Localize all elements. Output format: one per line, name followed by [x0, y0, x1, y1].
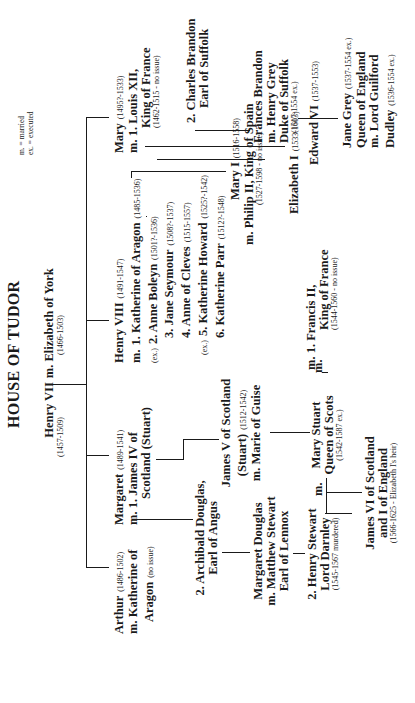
- wife-6-dates: (1512?-1548): [217, 196, 226, 240]
- person-charles-brandon: 2. Charles Brandon Earl of Suffolk: [185, 18, 211, 123]
- connector: [322, 372, 328, 373]
- person-arthur: Arthur (1486-1502) m. Katherine of Arago…: [110, 546, 157, 634]
- person-henry-stewart: 2. Henry Stewart Lord Darnley (1545-1567…: [306, 489, 341, 619]
- james-v-dates: (1512-1542): [239, 390, 248, 430]
- archibald-line2: Earl of Angus: [207, 468, 220, 608]
- henry-stewart-dates: (1545-1567 murdered): [332, 489, 340, 619]
- wife-5-prefix: (ex.): [200, 340, 209, 355]
- james-v-spouse: m. Marie of Guise: [250, 368, 263, 498]
- connector: [326, 492, 362, 493]
- person-margaret: Margaret (1489-1541) m. 1. James IV of S…: [110, 407, 153, 525]
- jane-grey-line3: m. Lord Guilford: [368, 37, 381, 148]
- margaret-dates: (1489-1541): [116, 430, 125, 470]
- jane-grey-name: Jane Grey: [340, 93, 354, 148]
- connector: [131, 172, 132, 178]
- henry-viii-name: Henry VIII: [112, 302, 126, 363]
- marriage-darnley-m: m.: [312, 482, 325, 496]
- legend-executed: ex. = executed: [27, 111, 36, 155]
- wife-4-name: 4. Anne of Cleves: [179, 246, 193, 338]
- james-v-line2: (Stuart): [235, 434, 249, 476]
- connector: [52, 384, 86, 385]
- legend: m. = married ex. = executed: [18, 111, 35, 155]
- person-james-vi: James VI of Scotland and I of England (1…: [364, 413, 399, 573]
- margaret-name: Margaret: [112, 474, 126, 525]
- person-jane-grey: Jane Grey (1537-1554 ex.) Queen of Engla…: [338, 37, 398, 148]
- edward-vi-name: Edward VI: [307, 105, 321, 165]
- henry-vii-name: Henry VII: [42, 382, 56, 438]
- person-henry-vii: Henry VII m. Elizabeth of York (1457-150…: [40, 233, 67, 473]
- children-bar: [86, 118, 87, 568]
- connector: [325, 513, 352, 514]
- arthur-note: (no issue): [146, 546, 155, 577]
- wife-5-name: 5. Katherine Howard: [196, 223, 210, 337]
- connector: [183, 440, 184, 460]
- jane-grey-line2: Queen of England: [355, 37, 368, 148]
- person-archibald-douglas: 2. Archibald Douglas, Earl of Angus: [194, 468, 220, 608]
- margaret-spouse-1: m. 1. James IV of: [127, 407, 140, 525]
- mary-i-dates: (1516-1558): [232, 118, 241, 158]
- charles-brandon-line2: Earl of Suffolk: [198, 18, 211, 123]
- connector: [146, 216, 147, 217]
- wife-5-dates: (1525?-1542): [200, 175, 209, 219]
- person-mary-stuart: Mary Stuart Queen of Scots (1542-1587 ex…: [310, 380, 345, 490]
- person-edward-vi: Edward VI (1537-1553): [305, 61, 322, 165]
- person-margaret-douglas: Margaret Douglas m. Matthew Stewart Earl…: [252, 476, 291, 626]
- connector: [86, 320, 109, 321]
- mary-stuart-dates: (1542-1587 ex.): [336, 380, 344, 490]
- margaret-douglas-line3: Earl of Lennox: [278, 476, 291, 626]
- wife-6-name: 6. Katherine Parr: [213, 243, 227, 338]
- connector: [326, 478, 327, 514]
- connector: [270, 432, 310, 433]
- person-frances-brandon: Frances Brandon m. Henry Grey Duke of Su…: [252, 50, 300, 143]
- jane-grey-dates: (1537-1554 ex.): [344, 37, 353, 89]
- mary-i-name: Mary I: [228, 162, 242, 200]
- connector: [156, 459, 184, 460]
- connector: [86, 117, 109, 118]
- mary-tudor-spouse-1: m. 1. Louis XII,: [127, 47, 140, 153]
- francis-ii-dates: (1544-1560 - no issue): [331, 249, 339, 370]
- henry-vii-dates: (1457-1509): [57, 417, 65, 457]
- elizabeth-i-name: Elizabeth I: [287, 155, 301, 214]
- connector: [195, 130, 250, 131]
- connector: [86, 455, 109, 456]
- connector: [131, 171, 226, 172]
- mary-tudor-name: Mary: [112, 123, 126, 153]
- connector: [293, 553, 305, 554]
- wife-2-dates: (1501?-1536): [150, 216, 159, 260]
- connector: [86, 567, 109, 568]
- margaret-spouse-1b: Scotland (Stuart): [140, 407, 153, 525]
- edward-vi-dates: (1537-1553): [311, 61, 320, 101]
- henry-viii-dates: (1491-1547): [116, 258, 125, 298]
- arthur-dates: (1486-1502): [116, 552, 125, 592]
- person-henry-viii: Henry VIII (1491-1547) m. 1. Katherine o…: [110, 175, 228, 363]
- person-mary-tudor: Mary (1495?-1533) m. 1. Louis XII, King …: [110, 47, 161, 153]
- connector: [298, 118, 338, 119]
- jane-grey-line4: Dudley: [383, 110, 397, 148]
- arthur-spouse: m. Katherine of: [127, 546, 140, 634]
- connector: [222, 552, 250, 553]
- wife-1-name: 1. Katherine of Aragon: [129, 223, 143, 346]
- connector: [135, 519, 193, 520]
- wife-2-prefix: (ex.): [150, 348, 159, 363]
- mary-tudor-dates: (1495?-1533): [116, 76, 125, 120]
- arthur-name: Arthur: [112, 596, 126, 634]
- guilford-dudley-dates: (1536-1554 ex.): [387, 54, 396, 106]
- page-title: HOUSE OF TUDOR: [6, 281, 23, 428]
- arthur-spouse-2: Aragon: [142, 582, 156, 622]
- elizabeth-york-dates: (1466-1503): [57, 315, 65, 355]
- wife-4-dates: (1515-1557): [183, 202, 192, 242]
- person-francis-ii: m. 1. Francis II, King of France (1544-1…: [305, 249, 340, 370]
- wife-3-dates: (1508?-1537): [166, 202, 175, 246]
- wife-1-dates: (1485-1536): [133, 179, 142, 219]
- wife-1-prefix: m.: [129, 349, 143, 363]
- frances-brandon-dates: (1517-1554 ex.): [291, 50, 299, 143]
- wife-3-name: 3. Jane Seymour: [162, 249, 176, 338]
- connector: [183, 439, 219, 440]
- family-tree-diagram: m. = married ex. = executed HOUSE OF TUD…: [0, 0, 415, 703]
- mary-tudor-spouse-dates: (1462-1515 - no issue): [153, 47, 161, 153]
- person-james-v: James V of Scotland (Stuart) (1512-1542)…: [220, 368, 263, 498]
- henry-vii-marriage: m. Elizabeth of York: [42, 268, 56, 378]
- james-vi-dates: (1566-1625 - Elizabeth I's heir): [390, 413, 398, 573]
- wife-2-name: 2. Anne Boleyn: [146, 264, 160, 344]
